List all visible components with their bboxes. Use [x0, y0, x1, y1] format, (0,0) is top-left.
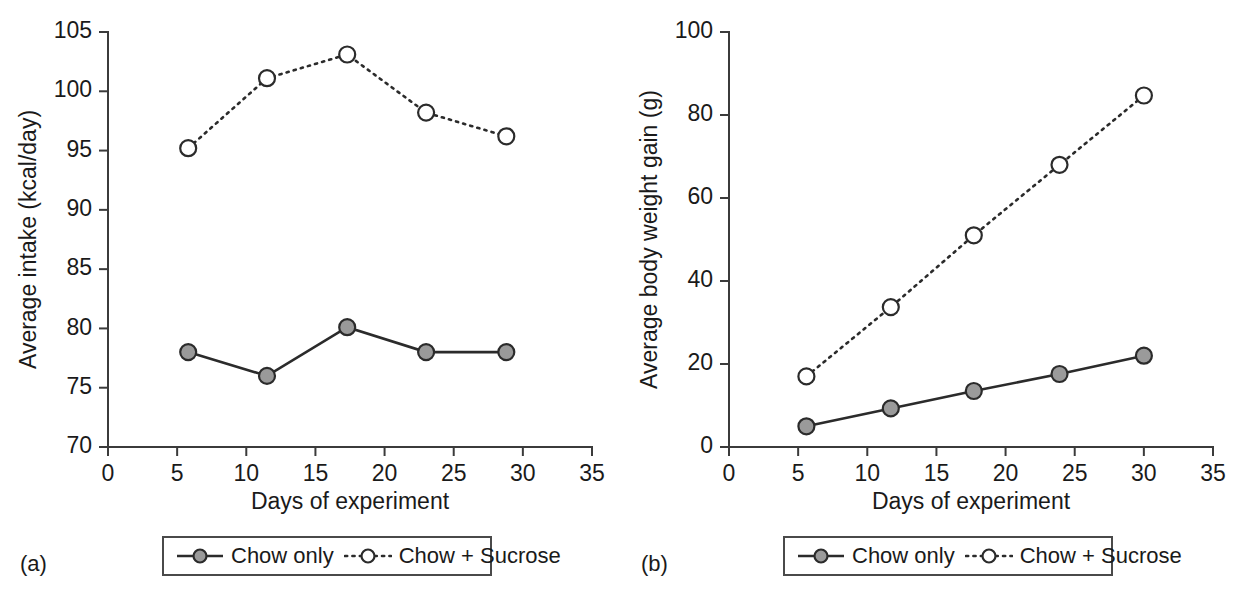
x-tick-label: 5 — [792, 460, 805, 486]
x-tick-label: 25 — [441, 460, 467, 486]
x-tick-label: 20 — [372, 460, 398, 486]
x-tick-label: 0 — [102, 460, 115, 486]
axis-lines — [108, 32, 592, 447]
data-point-marker — [418, 344, 434, 360]
data-point-marker — [798, 418, 814, 434]
x-axis-title: Days of experiment — [251, 488, 450, 514]
legend-marker-filled-circle-icon — [176, 547, 224, 565]
x-tick-label: 15 — [924, 460, 950, 486]
data-point-marker — [418, 105, 434, 121]
data-point-marker — [798, 368, 814, 384]
data-point-marker — [498, 128, 514, 144]
data-point-marker — [180, 344, 196, 360]
legend-marker-open-circle-icon — [965, 547, 1013, 565]
x-tick-label: 15 — [303, 460, 329, 486]
chart-panel-b: 02040608010005101520253035Days of experi… — [621, 0, 1242, 599]
data-point-marker — [259, 368, 275, 384]
legend-label-chow-only: Chow only — [852, 545, 955, 567]
y-tick-label: 100 — [54, 76, 92, 102]
legend-marker-filled-circle-icon — [797, 547, 845, 565]
x-tick-label: 0 — [723, 460, 736, 486]
y-tick-label: 0 — [700, 432, 713, 458]
data-point-marker — [259, 70, 275, 86]
y-tick-label: 70 — [66, 432, 92, 458]
legend-panel-b: Chow only Chow + Sucrose — [783, 536, 1113, 576]
x-tick-label: 10 — [854, 460, 880, 486]
panel-label-b: (b) — [641, 551, 668, 577]
panel-label-a: (a) — [20, 551, 47, 577]
x-tick-label: 10 — [233, 460, 259, 486]
y-tick-label: 80 — [687, 100, 713, 126]
data-point-marker — [180, 140, 196, 156]
x-tick-label: 25 — [1062, 460, 1088, 486]
x-axis-title: Days of experiment — [872, 488, 1071, 514]
legend-item-chow-only: Chow only — [176, 545, 334, 567]
y-tick-label: 40 — [687, 266, 713, 292]
x-tick-label: 35 — [1200, 460, 1226, 486]
data-point-marker — [1052, 366, 1068, 382]
data-point-marker — [883, 299, 899, 315]
y-tick-label: 80 — [66, 314, 92, 340]
chart-panel-a: 70758085909510010505101520253035Days of … — [0, 0, 621, 599]
data-point-marker — [498, 344, 514, 360]
figure-root: 70758085909510010505101520253035Days of … — [0, 0, 1243, 599]
legend-item-chow-sucrose: Chow + Sucrose — [344, 545, 561, 567]
y-tick-label: 100 — [675, 17, 713, 43]
y-tick-label: 75 — [66, 373, 92, 399]
data-point-marker — [339, 319, 355, 335]
y-tick-label: 60 — [687, 183, 713, 209]
chart-b-canvas: 02040608010005101520253035Days of experi… — [621, 0, 1242, 530]
y-tick-label: 20 — [687, 349, 713, 375]
data-point-marker — [1136, 88, 1152, 104]
x-tick-label: 35 — [579, 460, 605, 486]
data-point-marker — [883, 400, 899, 416]
y-tick-label: 105 — [54, 17, 92, 43]
x-tick-label: 30 — [510, 460, 536, 486]
data-point-marker — [339, 47, 355, 63]
y-tick-label: 95 — [66, 136, 92, 162]
legend-panel-a: Chow only Chow + Sucrose — [162, 536, 492, 576]
x-tick-label: 20 — [993, 460, 1019, 486]
legend-label-chow-sucrose: Chow + Sucrose — [399, 545, 561, 567]
data-point-marker — [1052, 157, 1068, 173]
y-tick-label: 85 — [66, 254, 92, 280]
chart-a-canvas: 70758085909510010505101520253035Days of … — [0, 0, 621, 530]
legend-item-chow-only: Chow only — [797, 545, 955, 567]
data-point-marker — [966, 383, 982, 399]
y-tick-label: 90 — [66, 195, 92, 221]
y-axis-title: Average body weight gain (g) — [636, 90, 662, 389]
y-axis-title: Average intake (kcal/day) — [15, 110, 41, 369]
x-tick-label: 30 — [1131, 460, 1157, 486]
legend-item-chow-sucrose: Chow + Sucrose — [965, 545, 1182, 567]
data-point-marker — [1136, 348, 1152, 364]
data-point-marker — [966, 227, 982, 243]
series-line-2 — [188, 55, 506, 149]
x-tick-label: 5 — [171, 460, 184, 486]
legend-label-chow-sucrose: Chow + Sucrose — [1020, 545, 1182, 567]
legend-marker-open-circle-icon — [344, 547, 392, 565]
legend-label-chow-only: Chow only — [231, 545, 334, 567]
